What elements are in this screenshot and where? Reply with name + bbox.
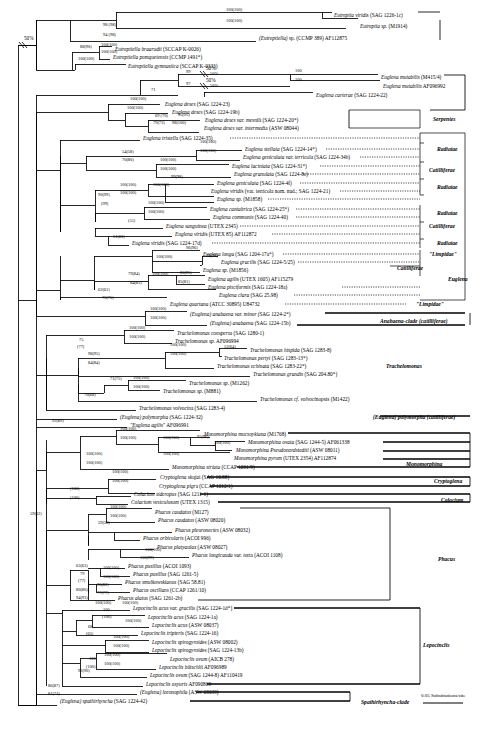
node-support-label: 50% bbox=[210, 84, 218, 89]
clade-label: Trachelomonas bbox=[386, 363, 422, 369]
node-support-label: 100 bbox=[89, 657, 96, 662]
node-support-label: 52(64) bbox=[224, 345, 236, 350]
taxon-label: Euglena quartana (ATCC 30895) U84732 bbox=[170, 301, 260, 307]
clade-label: Colacium bbox=[441, 497, 463, 503]
node-support-label: 86(87) bbox=[48, 684, 60, 689]
node-support-label: 71 bbox=[151, 88, 155, 93]
taxon-label: Phacus pleuronectes (ASW 08032) bbox=[175, 527, 250, 533]
node-support-label: 63(63) bbox=[76, 564, 88, 569]
node-support-label: 100(100) bbox=[125, 619, 141, 624]
node-support-label: 72(78) bbox=[206, 254, 218, 259]
node-support-label: 95(96) bbox=[197, 435, 209, 440]
clade-label: Spathirhyncha-clade bbox=[361, 699, 409, 705]
node-support-label: 100(100) bbox=[110, 505, 126, 510]
node-support-label: (65) bbox=[86, 632, 93, 637]
clade-label: "Limpidae" bbox=[429, 251, 457, 257]
taxon-label: Phacus orbicularis (ACOI 996) bbox=[143, 535, 211, 541]
taxon-label: (Euglena) anabaena (SAG 1224-15b) bbox=[210, 320, 290, 326]
node-support-label: 81(74) bbox=[48, 692, 60, 697]
node-support-label: 100(100) bbox=[120, 191, 136, 196]
taxon-label: Euglena mutabilis (M415/4) bbox=[381, 74, 441, 80]
node-support-label: 100(100) bbox=[133, 385, 149, 390]
node-support-label: 99 bbox=[186, 70, 190, 75]
node-support-label: 80(95) bbox=[180, 271, 192, 276]
taxon-label: (Euglena) leeonophila (ASW 08039) bbox=[140, 689, 219, 695]
node-support-label: 100(100) bbox=[226, 8, 242, 13]
node-support-label: 100(100) bbox=[200, 149, 216, 154]
node-support-label: 98(95) bbox=[88, 352, 100, 357]
taxon-label: Euglena geniculata var. terricola (SAG 1… bbox=[243, 154, 350, 160]
node-support-label: 100(100) bbox=[103, 566, 119, 571]
node-support-label: 92(90) bbox=[78, 669, 90, 674]
taxon-label: Euglena sp. (M1858) bbox=[217, 196, 262, 202]
node-support-label: 98(100) bbox=[172, 121, 186, 126]
taxon-label: Monomorphina striata (CCAP 1261/9) bbox=[172, 464, 255, 470]
taxon-label: Eutreptia viridis (SAG 1226-1c) bbox=[334, 12, 403, 18]
tree-branches bbox=[18, 12, 380, 705]
node-support-label: 100(100) bbox=[110, 514, 126, 519]
clade-label: Radiatae bbox=[437, 240, 458, 246]
node-support-label: 100(100) bbox=[104, 653, 120, 658]
taxon-label: Monomorphina mucsoykiana (M1768) bbox=[204, 431, 286, 437]
node-support-label: 100(100) bbox=[104, 662, 120, 667]
node-support-label: 80(80) bbox=[76, 588, 88, 593]
node-support-label: (100) bbox=[102, 615, 112, 620]
node-support-label: 84(85) bbox=[130, 281, 142, 286]
clade-label: Phacus bbox=[438, 556, 455, 562]
taxon-label: Trachelomonas echinata (SAG 1283-22*) bbox=[217, 363, 306, 369]
node-support-label: 100 bbox=[295, 78, 302, 83]
taxon-label: Lepocinclis oxyuris AF090869 bbox=[146, 681, 211, 687]
node-support-label: 100(100) bbox=[156, 255, 172, 260]
node-support-label: 59(58) bbox=[98, 521, 110, 526]
taxon-label: Euglena pisciformis (SAG 1224-18a) bbox=[208, 284, 287, 290]
node-support-label: 98 (98) bbox=[103, 23, 116, 28]
node-support-label: 100(100) bbox=[226, 19, 242, 24]
node-support-label: 69 (70) bbox=[155, 114, 168, 119]
root-collapse-label: 50% bbox=[24, 35, 34, 41]
taxon-label: Euglena viridis (var. terricola nom. nud… bbox=[211, 188, 330, 194]
taxon-label: Euglena deses var. mesnili (SAG 1224-20*… bbox=[205, 117, 298, 123]
node-support-label: 62(61) bbox=[98, 288, 110, 293]
node-support-label: 100(100) bbox=[133, 376, 149, 381]
node-support-label: 94(93) bbox=[76, 596, 88, 601]
taxon-label: Trachelomonas cf. volvocinopsis (M1422) bbox=[260, 396, 349, 402]
node-support-label: 100(99) bbox=[140, 556, 154, 561]
taxon-label: Euglena deses (SAG 1224-23) bbox=[165, 101, 230, 107]
node-support-label: 90(82) bbox=[97, 583, 109, 588]
taxon-label: Phacus longicauda var. torta (ACOI 1108) bbox=[192, 552, 282, 558]
node-support-label: 70(68) bbox=[84, 393, 96, 398]
node-support-label: 95(95) bbox=[178, 113, 190, 118]
taxon-label: Trachelomonas hispida (SAG 1283-8) bbox=[250, 347, 331, 353]
taxon-label: Trachelomonas conspersa (SAG 1280-1) bbox=[177, 330, 264, 336]
node-support-label: 59(62) bbox=[30, 512, 42, 517]
node-support-label: 71(75) bbox=[110, 377, 122, 382]
taxon-label: Phacus caudatus (M127) bbox=[155, 509, 209, 515]
node-support-label: 100(100) bbox=[113, 635, 129, 640]
node-support-label: 100(100) bbox=[101, 50, 117, 55]
taxon-label: Trachelomonas volvocina (SAG 1283-4) bbox=[139, 405, 225, 411]
taxon-label: Phacus caudatus (ASW 08020) bbox=[158, 517, 225, 523]
taxon-label: (Eutreptiella) sp. (CCMP 389) AF112875 bbox=[259, 35, 347, 41]
node-support-label: 100(100) bbox=[120, 427, 136, 432]
clade-brackets bbox=[349, 110, 465, 300]
node-support-label: 100 bbox=[103, 608, 110, 613]
taxon-label: Phacus smulkowskianus (SAG 58.81) bbox=[125, 579, 205, 585]
taxon-label: "Euglena agilis" AF096991 bbox=[130, 422, 189, 428]
taxon-label: Monomorphina pyrum (UTEX 2354) AF112874 bbox=[234, 455, 336, 461]
node-support-label: 85(81) bbox=[178, 280, 190, 285]
node-support-label: 100(100) bbox=[113, 644, 129, 649]
taxon-label: Phacus pusillus (ACOI 1093) bbox=[128, 563, 191, 569]
node-support-label: 54(58) bbox=[122, 150, 134, 155]
node-support-label: (100) bbox=[70, 496, 80, 501]
clade-label: Serpentes bbox=[433, 116, 455, 122]
taxon-label: Euglena granulata (SAG 1224-8c) bbox=[234, 171, 308, 177]
node-support-label: 79(84) bbox=[128, 272, 140, 277]
taxon-label: Lepocinclis tripteris (SAG 1224-16) bbox=[141, 630, 218, 636]
node-support-label: (51) bbox=[128, 219, 135, 224]
node-support-label: 100(100) bbox=[120, 436, 136, 441]
taxon-label: Lepocinclis spirogyroides (SAG 1224-13b) bbox=[152, 647, 244, 653]
node-support-label: 51(60) bbox=[113, 235, 125, 240]
node-support-label: 68 bbox=[88, 625, 92, 630]
taxon-label: Lepocinclis bütschlii AF096989 bbox=[159, 664, 227, 670]
taxon-label: Euglena geniculata (SAG 1224-4f) bbox=[217, 180, 292, 186]
